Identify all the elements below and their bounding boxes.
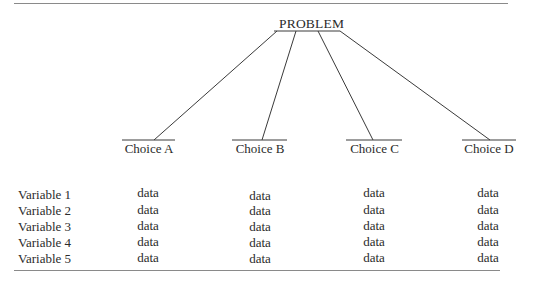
table-cell: data xyxy=(344,202,404,217)
choice-c-node: Choice C xyxy=(347,141,402,156)
table-cell: data xyxy=(230,235,290,250)
table-cell: data xyxy=(118,185,178,200)
choice-a-node: Choice A xyxy=(123,141,175,156)
table-cell: data xyxy=(458,250,518,265)
table-cell: data xyxy=(118,202,178,217)
table-cell: data xyxy=(344,234,404,249)
table-cell: data xyxy=(230,219,290,234)
bottom-rule xyxy=(14,270,500,271)
table-cell: data xyxy=(344,218,404,233)
table-cell: data xyxy=(118,234,178,249)
table-cell: data xyxy=(230,203,290,218)
row-label: Variable 2 xyxy=(18,203,71,218)
edge-choice-a xyxy=(154,31,277,140)
row-label: Variable 3 xyxy=(18,219,71,234)
edge-choice-c xyxy=(318,31,373,140)
table-cell: data xyxy=(344,250,404,265)
table-cell: data xyxy=(344,185,404,200)
row-label: Variable 4 xyxy=(18,235,71,250)
table-cell: data xyxy=(230,251,290,266)
choice-b-node: Choice B xyxy=(233,141,287,156)
row-label: Variable 1 xyxy=(18,187,71,202)
edge-choice-b xyxy=(262,31,296,140)
table-cell: data xyxy=(458,218,518,233)
table-cell: data xyxy=(118,218,178,233)
table-cell: data xyxy=(458,202,518,217)
row-label: Variable 5 xyxy=(18,251,71,266)
table-cell: data xyxy=(230,188,290,203)
problem-node: PROBLEM xyxy=(279,16,344,31)
table-cell: data xyxy=(458,234,518,249)
table-cell: data xyxy=(118,250,178,265)
edge-choice-d xyxy=(340,31,490,140)
table-cell: data xyxy=(458,185,518,200)
choice-d-node: Choice D xyxy=(462,141,516,156)
